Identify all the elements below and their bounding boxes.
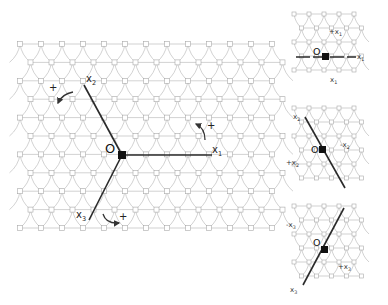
origin-label: O bbox=[105, 141, 115, 156]
x2-label: x2 bbox=[86, 73, 96, 87]
plus-sign-x1: + bbox=[207, 120, 215, 131]
main-lattice bbox=[10, 42, 294, 231]
side-lattices bbox=[292, 12, 369, 278]
side-origin-label-3: O bbox=[313, 237, 320, 248]
side-panel-x1: O +x1 x1 x1 bbox=[296, 28, 364, 85]
side-origin-marker-1 bbox=[322, 53, 329, 60]
side3-label-minus-x3: -x3 bbox=[286, 221, 296, 230]
plus-sign-x2: + bbox=[49, 82, 57, 93]
axis-x2 bbox=[84, 85, 122, 155]
side-origin-marker-3 bbox=[321, 246, 328, 253]
side1-label-x1-bottom: x1 bbox=[330, 76, 337, 85]
side2-label-x2-top: x2 bbox=[293, 113, 300, 122]
side3-label-x3-bottom: x3 bbox=[290, 286, 297, 295]
side1-label-plus-x1: +x1 bbox=[329, 28, 342, 37]
rotation-arrow-x3 bbox=[103, 214, 119, 223]
side3-label-plus-x3: +x3 bbox=[338, 263, 351, 272]
x1-label: x1 bbox=[212, 144, 222, 158]
lattice-diagram: O x1 x2 x3 + + + O +x1 x1 x1 O x2 -x2 +x… bbox=[0, 0, 388, 305]
origin-marker bbox=[118, 151, 126, 159]
side-origin-label-2: O bbox=[311, 144, 318, 155]
side-origin-marker-2 bbox=[319, 146, 326, 153]
plus-sign-x3: + bbox=[119, 211, 127, 222]
side-origin-label-1: O bbox=[313, 46, 320, 57]
x3-label: x3 bbox=[76, 209, 86, 223]
main-axes: O x1 x2 x3 + + + bbox=[49, 73, 222, 223]
side2-label-minus-x2: -x2 bbox=[340, 141, 350, 150]
